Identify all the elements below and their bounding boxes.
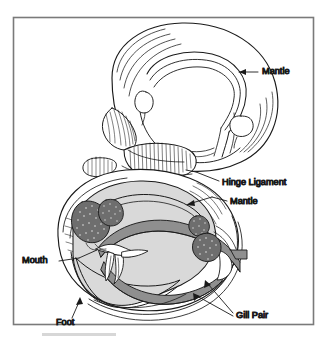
posterior-adductor-scar: [230, 116, 253, 137]
bivalve-anatomy-diagram: Mantle Hinge Ligament Mantle Mouth Foot …: [0, 0, 327, 348]
label-hinge-ligament: Hinge Ligament: [222, 177, 287, 187]
organ-right-lower: [192, 233, 221, 261]
label-mouth: Mouth: [22, 255, 48, 265]
organ-right-lower-body: [192, 233, 221, 261]
label-mantle-upper: Mantle: [262, 66, 290, 76]
anterior-adductor-scar: [135, 91, 153, 113]
label-mantle-lower: Mantle: [230, 196, 258, 206]
organ-left-small-body: [98, 199, 123, 226]
label-foot: Foot: [56, 317, 75, 327]
figure-root: Mantle Hinge Ligament Mantle Mouth Foot …: [0, 0, 327, 348]
scan-artifact: [42, 333, 116, 336]
label-gill-pair: Gill Pair: [236, 310, 268, 320]
organ-left-small: [98, 199, 123, 226]
